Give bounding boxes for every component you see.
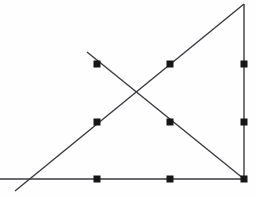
- ascending-diagonal: [15, 4, 244, 191]
- point-upper-right: [241, 61, 248, 68]
- point-middle-right: [241, 119, 248, 126]
- point-middle-mid: [167, 119, 174, 126]
- descending-diagonal: [87, 52, 244, 179]
- point-lower-right: [241, 176, 248, 183]
- point-layer: [94, 61, 248, 183]
- figure-canvas: [0, 0, 256, 197]
- figure-svg: [0, 0, 256, 197]
- point-middle-left: [94, 119, 101, 126]
- point-upper-left: [94, 61, 101, 68]
- point-upper-mid: [167, 61, 174, 68]
- point-lower-left: [94, 176, 101, 183]
- point-lower-mid: [167, 176, 174, 183]
- segment-layer: [0, 4, 245, 191]
